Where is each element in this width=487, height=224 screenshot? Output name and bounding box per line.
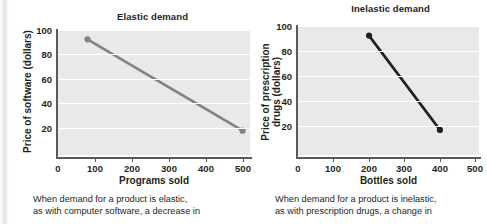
x-tick-label-100: 100 bbox=[321, 163, 345, 174]
gridline-20 bbox=[298, 126, 479, 127]
gridline-100 bbox=[298, 26, 479, 27]
x-axis-title-inelastic: Bottles sold bbox=[298, 175, 479, 186]
x-tick-label-400: 400 bbox=[194, 163, 218, 174]
y-axis-title-elastic: Price of software (dollars) bbox=[22, 12, 33, 172]
data-point-start bbox=[366, 33, 372, 39]
x-tick-label-0: 0 bbox=[46, 163, 70, 174]
x-tick-300 bbox=[404, 157, 405, 162]
x-tick-label-200: 200 bbox=[357, 163, 381, 174]
y-axis-line-inelastic bbox=[296, 25, 298, 159]
chart-title-inelastic: Inelastic demand bbox=[298, 3, 483, 14]
gridline-40 bbox=[298, 101, 479, 102]
plot-area-inelastic bbox=[298, 26, 479, 155]
chart-panel-elastic: Elastic demand 100 80 60 40 20 bbox=[0, 0, 250, 224]
x-tick-100 bbox=[95, 157, 96, 162]
demand-line bbox=[88, 39, 243, 130]
x-tick-400 bbox=[206, 157, 207, 162]
y-axis-title-line1: Price of prescription bbox=[260, 43, 271, 140]
y-axis-title-line2: drugs (dollars) bbox=[271, 57, 282, 127]
chart-panel-inelastic: Inelastic demand 100 80 60 40 20 bbox=[250, 0, 479, 224]
demand-curve-elastic bbox=[58, 30, 250, 155]
chart-title-elastic: Elastic demand bbox=[60, 11, 245, 22]
gridline-80 bbox=[58, 54, 250, 55]
x-tick-label-300: 300 bbox=[157, 163, 181, 174]
gridline-20 bbox=[58, 128, 250, 129]
x-tick-500 bbox=[475, 157, 476, 162]
x-tick-200 bbox=[369, 157, 370, 162]
data-point-end bbox=[437, 127, 443, 133]
x-tick-500 bbox=[243, 157, 244, 162]
x-axis-line-inelastic bbox=[296, 157, 481, 159]
gridline-40 bbox=[58, 103, 250, 104]
gridline-100 bbox=[58, 30, 250, 31]
data-point-start bbox=[84, 36, 90, 42]
plot-area-elastic bbox=[58, 30, 250, 155]
x-tick-200 bbox=[132, 157, 133, 162]
demand-line bbox=[369, 36, 440, 130]
x-tick-label-400: 400 bbox=[428, 163, 452, 174]
x-tick-label-200: 200 bbox=[120, 163, 144, 174]
y-axis-line-elastic bbox=[56, 29, 58, 159]
x-tick-400 bbox=[440, 157, 441, 162]
x-tick-100 bbox=[333, 157, 334, 162]
y-axis-title-inelastic: Price of prescription drugs (dollars) bbox=[260, 17, 282, 167]
gridline-60 bbox=[58, 79, 250, 80]
gridline-80 bbox=[298, 51, 479, 52]
x-axis-title-elastic: Programs sold bbox=[58, 175, 250, 186]
x-tick-label-0: 0 bbox=[286, 163, 310, 174]
caption-elastic: When demand for a product is elastic, as… bbox=[33, 193, 248, 217]
x-tick-300 bbox=[169, 157, 170, 162]
caption-inelastic: When demand for a product is inelastic, … bbox=[275, 193, 485, 217]
x-tick-label-100: 100 bbox=[83, 163, 107, 174]
x-tick-label-500: 500 bbox=[463, 163, 487, 174]
demand-curve-inelastic bbox=[298, 26, 479, 155]
x-axis-line-elastic bbox=[56, 157, 252, 159]
x-tick-label-300: 300 bbox=[392, 163, 416, 174]
gridline-60 bbox=[298, 76, 479, 77]
